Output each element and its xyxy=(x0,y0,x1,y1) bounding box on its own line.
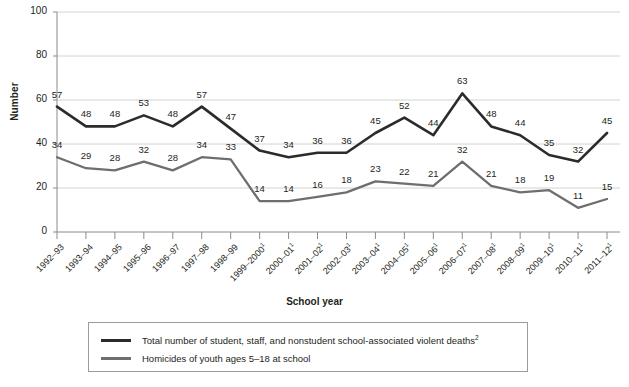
y-axis-tick-label: 20 xyxy=(17,181,47,192)
data-label: 44 xyxy=(421,117,445,128)
violent-deaths-line-chart: Number School year 020406080100 1992–931… xyxy=(0,0,629,387)
data-label: 19 xyxy=(537,172,561,183)
data-label: 28 xyxy=(161,152,185,163)
data-label: 14 xyxy=(277,183,301,194)
data-label: 37 xyxy=(248,133,272,144)
data-label: 36 xyxy=(306,135,330,146)
legend-item-total-deaths: Total number of student, staff, and nons… xyxy=(101,332,479,348)
data-label: 53 xyxy=(132,97,156,108)
legend: Total number of student, staff, and nons… xyxy=(88,322,528,372)
data-label: 21 xyxy=(479,168,503,179)
data-label: 48 xyxy=(103,108,127,119)
data-label: 35 xyxy=(537,137,561,148)
data-label: 48 xyxy=(161,108,185,119)
data-label: 63 xyxy=(450,75,474,86)
legend-label-homicides: Homicides of youth ages 5–18 at school xyxy=(142,353,310,364)
data-label: 21 xyxy=(421,168,445,179)
data-label: 48 xyxy=(479,108,503,119)
data-label: 33 xyxy=(219,141,243,152)
data-label: 34 xyxy=(277,139,301,150)
data-label: 29 xyxy=(74,150,98,161)
data-label: 18 xyxy=(508,174,532,185)
data-label: 18 xyxy=(334,174,358,185)
y-axis-tick-label: 0 xyxy=(17,225,47,236)
data-label: 32 xyxy=(132,144,156,155)
data-label: 45 xyxy=(595,115,619,126)
data-label: 34 xyxy=(190,139,214,150)
y-axis-tick-label: 60 xyxy=(17,93,47,104)
data-label: 45 xyxy=(363,115,387,126)
data-label: 36 xyxy=(334,135,358,146)
y-axis-tick-label: 40 xyxy=(17,137,47,148)
data-label: 32 xyxy=(566,144,590,155)
legend-item-homicides: Homicides of youth ages 5–18 at school xyxy=(101,350,310,366)
data-label: 57 xyxy=(45,89,69,100)
legend-swatch-total-deaths xyxy=(101,339,131,342)
data-label: 34 xyxy=(45,139,69,150)
data-label: 28 xyxy=(103,152,127,163)
data-label: 52 xyxy=(392,100,416,111)
data-label: 32 xyxy=(450,144,474,155)
data-label: 11 xyxy=(566,190,590,201)
data-label: 48 xyxy=(74,108,98,119)
data-label: 57 xyxy=(190,89,214,100)
data-label: 22 xyxy=(392,166,416,177)
data-label: 47 xyxy=(219,111,243,122)
y-axis-tick-label: 100 xyxy=(17,5,47,16)
data-label: 16 xyxy=(306,179,330,190)
y-axis-tick-label: 80 xyxy=(17,49,47,60)
data-label: 44 xyxy=(508,117,532,128)
data-label: 23 xyxy=(363,163,387,174)
data-label: 15 xyxy=(595,181,619,192)
legend-label-total-deaths: Total number of student, staff, and nons… xyxy=(142,335,479,346)
legend-swatch-homicides xyxy=(101,357,131,360)
data-label: 14 xyxy=(248,183,272,194)
